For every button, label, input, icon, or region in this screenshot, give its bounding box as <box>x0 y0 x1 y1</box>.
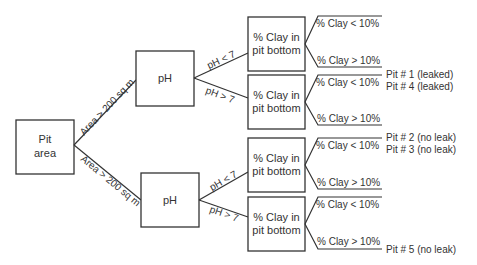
leaf-label-high: % Clay > 10% <box>317 177 380 188</box>
outcome-pit-2: Pit # 2 (no leak) <box>386 132 456 143</box>
leaf-branches-3: % Clay < 10% % Clay > 10% <box>305 138 382 189</box>
ph-edge-upper-base: pH > 7 <box>194 78 248 105</box>
clay-node-4: % Clay in pit bottom <box>248 197 305 251</box>
root-label-line1: Pit <box>39 133 52 145</box>
leaf-branches-2: % Clay < 10% % Clay > 10% <box>305 75 382 125</box>
ph-node-lower: pH <box>141 173 199 227</box>
leaf-label-low: % Clay < 10% <box>316 77 379 88</box>
leaf-label-high: % Clay > 10% <box>317 236 380 247</box>
area-edge-lower-label: Area > 200 sq m <box>79 153 143 208</box>
ph-edge-lower-base: pH > 7 <box>199 200 248 224</box>
clay-node-1: % Clay in pit bottom <box>248 17 305 71</box>
outcome-pit-1: Pit # 1 (leaked) <box>386 69 453 80</box>
clay-node-label-line1: % Clay in <box>253 152 299 164</box>
clay-node-label-line2: pit bottom <box>252 165 300 177</box>
ph-node-upper: pH <box>136 51 194 106</box>
ph-edge-label: pH < 7 <box>205 48 237 71</box>
leaf-label-low: % Clay < 10% <box>316 140 379 151</box>
clay-node-label-line2: pit bottom <box>252 224 300 236</box>
area-edge-upper-label: Area > 200 sq m <box>77 76 136 137</box>
outcome-pit-4: Pit # 4 (leaked) <box>386 81 453 92</box>
leaf-label-high: % Clay > 10% <box>317 113 380 124</box>
clay-node-3: % Clay in pit bottom <box>248 138 305 192</box>
ph-edge-upper-acid: pH < 7 <box>194 48 248 78</box>
ph-node-lower-label: pH <box>163 194 177 206</box>
ph-node-upper-label: pH <box>158 72 172 84</box>
clay-node-label-line2: pit bottom <box>252 102 300 114</box>
ph-edge-lower-acid: pH < 7 <box>199 168 248 200</box>
leaf-label-low: % Clay < 10% <box>316 18 379 29</box>
ph-edge-label: pH < 7 <box>208 168 240 193</box>
leaf-label-high: % Clay > 10% <box>317 55 380 66</box>
decision-tree-diagram: Pit area Area > 200 sq m Area > 200 sq m… <box>0 0 477 265</box>
area-edge-upper: Area > 200 sq m <box>74 76 136 145</box>
clay-node-label-line1: % Clay in <box>253 211 299 223</box>
outcome-pit-5: Pit # 5 (no leak) <box>386 244 456 255</box>
root-label-line2: area <box>34 147 57 159</box>
area-edge-lower: Area > 200 sq m <box>74 145 143 208</box>
leaf-branches-1: % Clay < 10% % Clay > 10% <box>305 16 382 67</box>
clay-node-2: % Clay in pit bottom <box>248 75 305 129</box>
leaf-branches-4: % Clay < 10% % Clay > 10% <box>305 197 382 249</box>
clay-node-label-line1: % Clay in <box>253 89 299 101</box>
clay-node-label-line1: % Clay in <box>253 31 299 43</box>
root-node-pit-area: Pit area <box>16 120 74 174</box>
outcome-pit-3: Pit # 3 (no leak) <box>386 144 456 155</box>
leaf-label-low: % Clay < 10% <box>316 199 379 210</box>
ph-edge-label: pH > 7 <box>208 203 240 223</box>
clay-node-label-line2: pit bottom <box>252 44 300 56</box>
